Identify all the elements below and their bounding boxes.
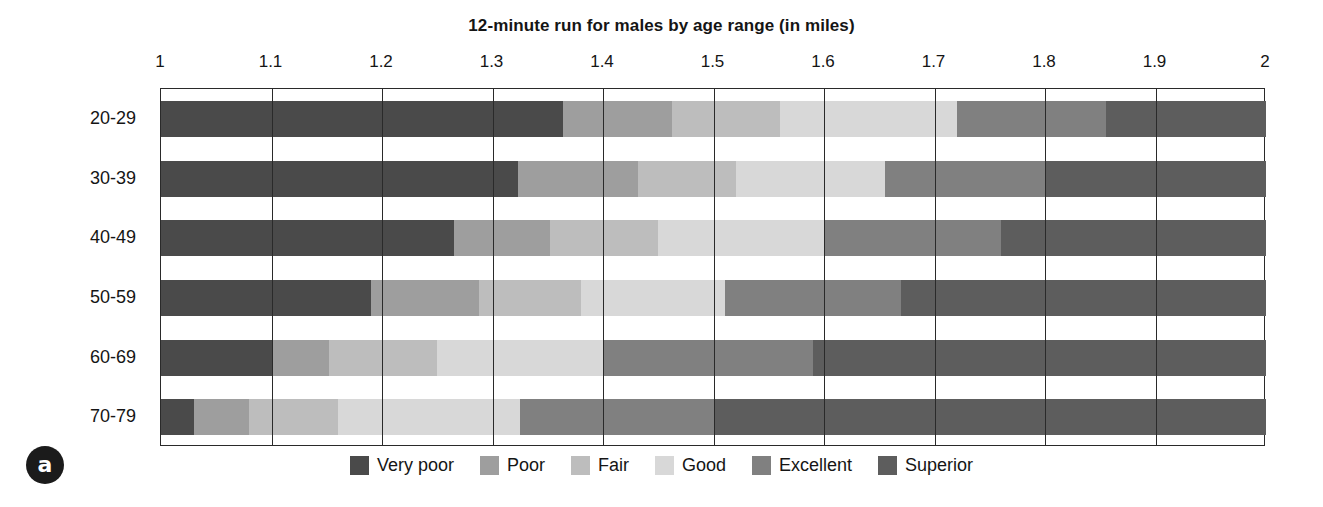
- legend-item: Fair: [571, 455, 629, 476]
- legend-item: Poor: [480, 455, 545, 476]
- x-tick-label: 1.7: [922, 52, 946, 72]
- y-axis-label: 30-39: [90, 160, 136, 196]
- x-tick-label: 1.3: [480, 52, 504, 72]
- bar-row: [161, 280, 1264, 316]
- x-tick-label: 1.9: [1143, 52, 1167, 72]
- bar-segment-fair: [249, 399, 337, 435]
- bar-segment-good: [658, 220, 824, 256]
- bar-segment-good: [736, 161, 885, 197]
- legend-label: Good: [682, 455, 726, 476]
- bar-segment-poor: [563, 101, 671, 137]
- bar-segment-fair: [638, 161, 735, 197]
- y-axis-label: 20-29: [90, 100, 136, 136]
- bar-segment-superior: [1001, 220, 1266, 256]
- bar-segment-fair: [672, 101, 780, 137]
- bar-row: [161, 101, 1264, 137]
- x-tick-label: 2: [1260, 52, 1269, 72]
- bar-segment-excellent: [520, 399, 713, 435]
- bar-segment-very-poor: [161, 280, 371, 316]
- x-tick-label: 1.6: [811, 52, 835, 72]
- bar-segment-very-poor: [161, 399, 194, 435]
- y-axis-label: 50-59: [90, 279, 136, 315]
- legend-item: Very poor: [350, 455, 454, 476]
- legend-label: Excellent: [779, 455, 852, 476]
- legend-swatch-icon: [655, 456, 674, 475]
- bar-rows: [161, 89, 1264, 445]
- bar-segment-excellent: [885, 161, 1045, 197]
- y-axis-label: 70-79: [90, 398, 136, 434]
- bar-row: [161, 161, 1264, 197]
- x-tick-label: 1.4: [590, 52, 614, 72]
- bar-row: [161, 399, 1264, 435]
- bar-segment-excellent: [603, 340, 813, 376]
- bar-segment-good: [437, 340, 603, 376]
- bar-segment-excellent: [824, 220, 1001, 256]
- bar-segment-poor: [371, 280, 479, 316]
- bar-segment-poor: [194, 399, 249, 435]
- bar-segment-superior: [813, 340, 1266, 376]
- legend-swatch-icon: [878, 456, 897, 475]
- bar-segment-superior: [1106, 101, 1266, 137]
- legend-swatch-icon: [350, 456, 369, 475]
- bar-segment-poor: [454, 220, 550, 256]
- bar-row: [161, 340, 1264, 376]
- bar-row: [161, 220, 1264, 256]
- bar-segment-very-poor: [161, 340, 272, 376]
- legend-item: Excellent: [752, 455, 852, 476]
- figure-panel: 12-minute run for males by age range (in…: [0, 0, 1323, 507]
- bar-segment-excellent: [957, 101, 1106, 137]
- bar-segment-good: [581, 280, 725, 316]
- bar-segment-good: [780, 101, 957, 137]
- x-tick-label: 1.5: [701, 52, 725, 72]
- x-tick-label: 1.8: [1032, 52, 1056, 72]
- legend-swatch-icon: [571, 456, 590, 475]
- chart-title: 12-minute run for males by age range (in…: [0, 16, 1323, 36]
- bar-segment-very-poor: [161, 161, 518, 197]
- legend-label: Fair: [598, 455, 629, 476]
- x-axis-ticks: 11.11.21.31.41.51.61.71.81.92: [160, 52, 1265, 86]
- bar-segment-good: [338, 399, 520, 435]
- plot-area: [160, 88, 1265, 446]
- panel-label-badge: a: [26, 446, 64, 484]
- bar-segment-very-poor: [161, 220, 454, 256]
- x-tick-label: 1.2: [369, 52, 393, 72]
- legend-label: Superior: [905, 455, 973, 476]
- bar-segment-superior: [714, 399, 1267, 435]
- bar-segment-fair: [329, 340, 437, 376]
- bar-segment-poor: [518, 161, 638, 197]
- bar-segment-superior: [1045, 161, 1266, 197]
- bar-segment-fair: [479, 280, 581, 316]
- y-axis-label: 40-49: [90, 219, 136, 255]
- legend-swatch-icon: [752, 456, 771, 475]
- legend: Very poorPoorFairGoodExcellentSuperior: [0, 455, 1323, 476]
- x-tick-label: 1.1: [259, 52, 283, 72]
- legend-label: Very poor: [377, 455, 454, 476]
- bar-segment-poor: [272, 340, 329, 376]
- legend-item: Superior: [878, 455, 973, 476]
- bar-segment-fair: [550, 220, 658, 256]
- legend-swatch-icon: [480, 456, 499, 475]
- legend-label: Poor: [507, 455, 545, 476]
- legend-item: Good: [655, 455, 726, 476]
- y-axis-label: 60-69: [90, 339, 136, 375]
- y-axis-category-labels: 20-2930-3940-4950-5960-6970-79: [0, 88, 150, 446]
- x-tick-label: 1: [155, 52, 164, 72]
- bar-segment-superior: [901, 280, 1266, 316]
- bar-segment-very-poor: [161, 101, 563, 137]
- bar-segment-excellent: [725, 280, 902, 316]
